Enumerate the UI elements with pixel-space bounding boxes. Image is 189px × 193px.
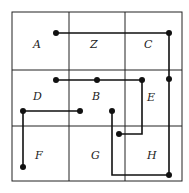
cell-label-a: A: [32, 38, 41, 51]
cell-label-b: B: [91, 90, 100, 103]
cell-label-f: F: [34, 149, 43, 162]
cell-label-e: E: [146, 91, 155, 104]
cell-label-g: G: [91, 149, 100, 162]
cell-label-c: C: [144, 38, 153, 51]
cell-label-h: H: [146, 149, 157, 162]
cell-label-z: Z: [89, 38, 98, 51]
wire-d-f: [23, 111, 80, 167]
grid-diagram: A Z C D B E F G H: [0, 0, 189, 193]
cell-label-d: D: [32, 90, 42, 103]
